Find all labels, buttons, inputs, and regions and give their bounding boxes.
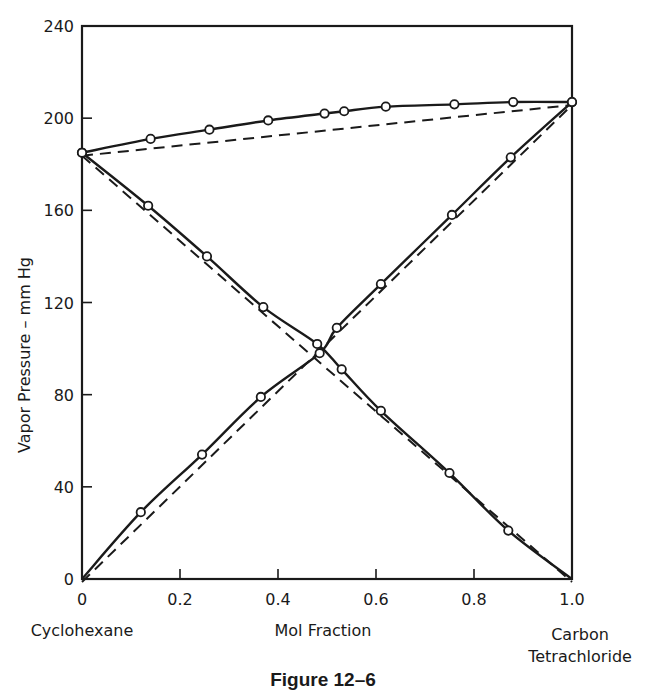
y-tick-label: 200 <box>43 109 74 128</box>
x-tick-labels: 00.20.40.60.81.0 <box>77 590 585 609</box>
data-point-marker <box>448 211 456 219</box>
data-point-marker <box>205 125 213 133</box>
x-tick-label: 0.2 <box>167 590 192 609</box>
data-point-marker <box>144 202 152 210</box>
data-point-marker <box>259 303 267 311</box>
y-axis-label: Vapor Pressure – mm Hg <box>15 257 34 453</box>
y-tick-label: 40 <box>54 478 74 497</box>
x-axis-right-component-label-line2: Tetrachloride <box>527 647 632 666</box>
series-layer <box>82 102 572 582</box>
observed-curve-1 <box>82 153 572 579</box>
x-axis-right-component-label-line1: Carbon <box>551 625 609 644</box>
x-axis-label: Mol Fraction <box>275 621 372 640</box>
data-point-marker <box>450 100 458 108</box>
x-tick-label: 0.6 <box>363 590 388 609</box>
data-markers <box>78 98 576 535</box>
data-point-marker <box>504 526 512 534</box>
figure-caption: Figure 12–6 <box>270 669 376 690</box>
data-point-marker <box>445 469 453 477</box>
y-tick-label: 0 <box>64 570 74 589</box>
data-point-marker <box>382 102 390 110</box>
y-tick-labels: 04080120160200240 <box>43 17 74 589</box>
data-point-marker <box>137 508 145 516</box>
x-axis-left-component-label: Cyclohexane <box>31 621 134 640</box>
data-point-marker <box>509 98 517 106</box>
data-point-marker <box>340 107 348 115</box>
data-point-marker <box>315 349 323 357</box>
data-point-marker <box>203 252 211 260</box>
data-point-marker <box>257 393 265 401</box>
data-point-marker <box>377 407 385 415</box>
data-point-marker <box>333 324 341 332</box>
x-tick-label: 0 <box>77 590 87 609</box>
observed-curve-2 <box>82 102 572 579</box>
x-tick-label: 1.0 <box>559 590 584 609</box>
data-point-marker <box>78 149 86 157</box>
y-tick-label: 80 <box>54 386 74 405</box>
data-point-marker <box>507 153 515 161</box>
y-tick-label: 240 <box>43 17 74 36</box>
y-tick-label: 160 <box>43 201 74 220</box>
data-point-marker <box>377 280 385 288</box>
y-tick-label: 120 <box>43 294 74 313</box>
data-point-marker <box>198 450 206 458</box>
x-tick-label: 0.8 <box>461 590 486 609</box>
ideal-line-4 <box>82 156 572 582</box>
data-point-marker <box>568 98 576 106</box>
data-point-marker <box>146 135 154 143</box>
x-tick-label: 0.4 <box>265 590 290 609</box>
data-point-marker <box>313 340 321 348</box>
data-point-marker <box>264 116 272 124</box>
data-point-marker <box>320 109 328 117</box>
vapor-pressure-chart: 04080120160200240 00.20.40.60.81.0 Vapor… <box>0 0 647 696</box>
data-point-marker <box>338 365 346 373</box>
